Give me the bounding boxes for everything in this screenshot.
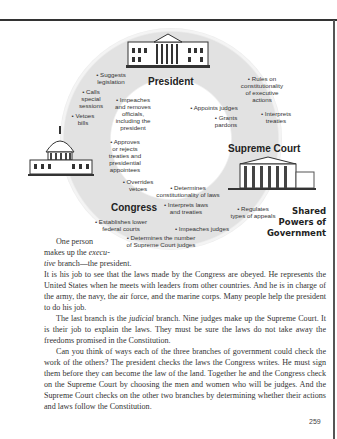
power-approves-treaties: • Approves or rejects treaties and presi… [104,138,146,173]
intro-line-3: tive branch—the president. [44,259,154,270]
congress-label: Congress [111,202,157,213]
top-rule [0,19,337,21]
power-determines-constitutionality: • Determines constitutionality of laws [152,184,224,198]
supreme-court-icon [228,156,316,192]
page-edge [333,20,335,439]
supreme-court-label: Supreme Court [228,143,300,154]
intro-line-1: One person [44,237,154,248]
capitol-icon [28,126,94,178]
power-rules-executive-actions: • Rules on constitutionality of executiv… [234,75,290,103]
intro-text: One person makes up the execu- tive bran… [44,237,154,270]
power-grants-pardons: • Grants pardons [210,114,242,128]
white-house-icon [126,30,210,70]
diagram-caption: Shared Powers of Government [256,206,326,239]
power-impeaches-judges: • Impeaches judges [172,225,232,232]
power-interprets-treaties: • Interprets treaties [256,110,296,124]
power-overrides-vetoes: • Overrides vetoes [120,178,156,192]
power-interprets-laws: • Interprets laws and treaties [158,201,214,215]
page-number: 259 [309,418,321,425]
intro-line-2: makes up the execu- [44,248,154,259]
power-calls-special-sessions: • Calls special sessions [76,88,106,109]
power-establishes-lower-courts: • Establishes lower federal courts [86,218,156,232]
paragraph-executive: It is his job to see that the laws made … [44,270,326,314]
power-suggests-legislation: • Suggests legislation [88,71,134,85]
president-label: President [148,76,194,87]
paragraph-judicial: The last branch is the judicial branch. … [44,314,326,347]
paragraph-checks: Can you think of ways each of the three … [44,347,326,412]
power-vetoes-bills: • Vetoes bills [68,112,98,126]
power-impeaches-officials: • Impeaches and removes officials, inclu… [106,96,160,131]
power-appoints-judges: • Appoints judges [184,104,244,111]
